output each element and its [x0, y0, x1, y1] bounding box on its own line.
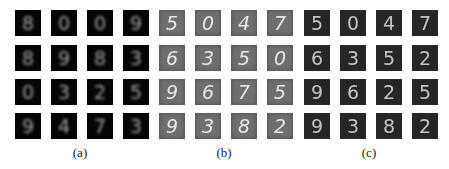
- digit-glyph: 5: [304, 10, 330, 36]
- panel-caption: (a): [10, 145, 150, 161]
- digit-glyph: 0: [340, 10, 366, 36]
- digit-glyph: 7: [412, 10, 438, 36]
- digit-image: 5: [412, 79, 438, 105]
- digit-glyph: 5: [267, 79, 293, 105]
- panel-a: 8009898303259473(a): [10, 0, 150, 169]
- panel-caption: (c): [299, 145, 439, 161]
- digit-glyph: 0: [267, 45, 293, 71]
- digit-glyph: 3: [340, 45, 366, 71]
- digit-glyph: 2: [267, 113, 293, 139]
- digit-image: 5: [159, 10, 185, 36]
- digit-glyph: 0: [87, 10, 113, 36]
- digit-image: 8: [87, 45, 113, 71]
- digit-image: 8: [231, 113, 257, 139]
- digit-image: 6: [304, 45, 330, 71]
- digit-glyph: 0: [195, 10, 221, 36]
- digit-image: 2: [412, 45, 438, 71]
- digit-image: 2: [87, 79, 113, 105]
- digit-glyph: 9: [304, 79, 330, 105]
- digit-image: 9: [304, 79, 330, 105]
- digit-image: 5: [304, 10, 330, 36]
- digit-image: 8: [15, 45, 41, 71]
- digit-glyph: 2: [87, 79, 113, 105]
- digit-image: 3: [51, 79, 77, 105]
- digit-glyph: 8: [15, 10, 41, 36]
- digit-image: 9: [51, 45, 77, 71]
- digit-image: 3: [340, 45, 366, 71]
- digit-image: 9: [15, 113, 41, 139]
- digit-image: 6: [195, 79, 221, 105]
- digit-glyph: 6: [340, 79, 366, 105]
- digit-image: 0: [195, 10, 221, 36]
- digit-image: 9: [304, 113, 330, 139]
- digit-image: 8: [15, 10, 41, 36]
- digit-glyph: 0: [15, 79, 41, 105]
- panel-c: 5047635296259382(c): [299, 0, 439, 169]
- digit-glyph: 3: [51, 79, 77, 105]
- digit-glyph: 7: [267, 10, 293, 36]
- digit-image: 0: [87, 10, 113, 36]
- digit-glyph: 9: [159, 113, 185, 139]
- digit-image: 9: [159, 113, 185, 139]
- digit-glyph: 9: [304, 113, 330, 139]
- digit-glyph: 2: [412, 113, 438, 139]
- digit-glyph: 8: [15, 45, 41, 71]
- digit-image: 5: [123, 79, 149, 105]
- digit-glyph: 3: [195, 45, 221, 71]
- digit-glyph: 0: [51, 10, 77, 36]
- digit-image: 5: [376, 45, 402, 71]
- digit-glyph: 7: [231, 79, 257, 105]
- digit-glyph: 6: [159, 45, 185, 71]
- digit-glyph: 5: [376, 45, 402, 71]
- digit-glyph: 2: [376, 79, 402, 105]
- digit-glyph: 9: [123, 10, 149, 36]
- digit-image: 6: [159, 45, 185, 71]
- digit-glyph: 5: [123, 79, 149, 105]
- digit-image: 6: [340, 79, 366, 105]
- digit-glyph: 4: [231, 10, 257, 36]
- digit-image: 0: [267, 45, 293, 71]
- digit-image: 8: [376, 113, 402, 139]
- digit-glyph: 6: [304, 45, 330, 71]
- digit-image: 3: [195, 45, 221, 71]
- digit-image: 7: [231, 79, 257, 105]
- digit-glyph: 2: [412, 45, 438, 71]
- digit-glyph: 9: [15, 113, 41, 139]
- digit-glyph: 9: [159, 79, 185, 105]
- digit-image: 2: [412, 113, 438, 139]
- digit-glyph: 8: [87, 45, 113, 71]
- digit-glyph: 5: [412, 79, 438, 105]
- digit-glyph: 5: [231, 45, 257, 71]
- digit-image: 4: [51, 113, 77, 139]
- digit-glyph: 8: [231, 113, 257, 139]
- digit-glyph: 4: [376, 10, 402, 36]
- digit-glyph: 7: [87, 113, 113, 139]
- digit-glyph: 3: [123, 45, 149, 71]
- digit-image: 3: [123, 113, 149, 139]
- digit-image: 4: [231, 10, 257, 36]
- digit-image: 3: [123, 45, 149, 71]
- digit-glyph: 3: [195, 113, 221, 139]
- digit-image: 5: [267, 79, 293, 105]
- digit-image: 7: [412, 10, 438, 36]
- digit-image: 2: [267, 113, 293, 139]
- panel-caption: (b): [154, 145, 294, 161]
- digit-image: 7: [87, 113, 113, 139]
- digit-glyph: 5: [159, 10, 185, 36]
- digit-image: 0: [340, 10, 366, 36]
- panel-b: 5047635096759382(b): [154, 0, 294, 169]
- digit-glyph: 3: [123, 113, 149, 139]
- digit-image: 9: [159, 79, 185, 105]
- digit-glyph: 9: [51, 45, 77, 71]
- digit-glyph: 6: [195, 79, 221, 105]
- digit-image: 0: [51, 10, 77, 36]
- digit-image: 4: [376, 10, 402, 36]
- digit-image: 0: [15, 79, 41, 105]
- digit-image: 5: [231, 45, 257, 71]
- digit-image: 7: [267, 10, 293, 36]
- digit-glyph: 3: [340, 113, 366, 139]
- digit-glyph: 8: [376, 113, 402, 139]
- digit-image: 2: [376, 79, 402, 105]
- digit-image: 9: [123, 10, 149, 36]
- digit-image: 3: [340, 113, 366, 139]
